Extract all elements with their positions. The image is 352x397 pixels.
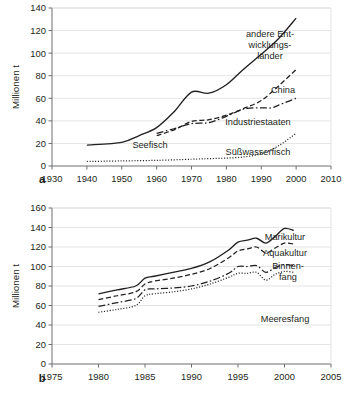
panel-letter-a: a — [39, 173, 46, 185]
x-tick-label-1995: 1995 — [228, 371, 249, 382]
series-line-industriestaaten — [157, 98, 297, 133]
x-tick-label-1950: 1950 — [111, 173, 132, 184]
y-tick-label-0: 0 — [41, 358, 46, 369]
y-tick-label-160: 160 — [30, 202, 46, 213]
series-label-industriestaaten: Industriestaaten — [225, 117, 290, 127]
x-axis: 1975198019851990199520002005 — [42, 364, 342, 382]
series-label-aquakultur: Aquakultur — [263, 248, 307, 258]
line-chart-a: 0204060801001201401930194019501960197019… — [0, 0, 352, 198]
chart-panel-b: 0204060801001201401601975198019851990199… — [0, 198, 352, 397]
y-tick-label-80: 80 — [36, 280, 46, 291]
x-tick-label-1985: 1985 — [135, 371, 156, 382]
line-chart-b: 0204060801001201401601975198019851990199… — [0, 198, 352, 397]
x-tick-label-2000: 2000 — [286, 173, 307, 184]
y-tick-label-140: 140 — [30, 2, 46, 13]
x-tick-label-1960: 1960 — [146, 173, 167, 184]
series-label-binnenfang: Binnen-fang — [272, 261, 304, 282]
x-axis: 193019401950196019701980199020002010 — [42, 166, 342, 184]
series-line-binnenfang — [99, 264, 294, 306]
x-tick-label-1980: 1980 — [216, 173, 237, 184]
y-axis: 020406080100120140160 — [30, 202, 52, 369]
y-tick-label-140: 140 — [30, 222, 46, 233]
y-tick-label-20: 20 — [36, 138, 46, 149]
x-tick-label-1980: 1980 — [88, 371, 109, 382]
series-labels: MarikulturAquakulturBinnen-fangMeeresfan… — [261, 232, 310, 324]
y-tick-label-80: 80 — [36, 70, 46, 81]
series-label-china: China — [271, 85, 296, 95]
y-tick-label-40: 40 — [36, 115, 46, 126]
y-tick-label-20: 20 — [36, 339, 46, 350]
y-tick-label-0: 0 — [41, 160, 46, 171]
panel-letter-b: b — [39, 372, 46, 384]
x-tick-label-2005: 2005 — [321, 371, 342, 382]
y-axis-title: Millionen t — [10, 264, 21, 308]
annotation-seefisch: Seefisch — [132, 140, 167, 150]
chart-panel-a: 0204060801001201401930194019501960197019… — [0, 0, 352, 198]
y-tick-label-40: 40 — [36, 319, 46, 330]
series-label-andere-entwicklungslaender: andere Ent-wicklungs-länder — [246, 29, 294, 61]
x-tick-label-1970: 1970 — [181, 173, 202, 184]
y-tick-label-60: 60 — [36, 93, 46, 104]
x-tick-label-2000: 2000 — [274, 371, 295, 382]
y-tick-label-60: 60 — [36, 300, 46, 311]
annotations: Seefisch — [132, 140, 167, 150]
y-tick-label-100: 100 — [30, 48, 46, 59]
x-tick-label-1990: 1990 — [251, 173, 272, 184]
series-label-suesswasserfisch: Süßwasserfisch — [226, 147, 291, 157]
x-tick-label-2010: 2010 — [321, 173, 342, 184]
y-tick-label-120: 120 — [30, 241, 46, 252]
y-tick-label-100: 100 — [30, 261, 46, 272]
series-label-marikultur: Marikultur — [265, 232, 305, 242]
x-tick-label-1990: 1990 — [181, 371, 202, 382]
series-labels: andere Ent-wicklungs-länderChinaIndustri… — [225, 29, 296, 157]
x-tick-label-1940: 1940 — [76, 173, 97, 184]
y-tick-label-120: 120 — [30, 25, 46, 36]
series-line-meeresfang — [99, 271, 294, 312]
y-axis-title: Millionen t — [10, 65, 21, 109]
series-label-meeresfang: Meeresfang — [261, 314, 310, 324]
y-axis: 020406080100120140 — [30, 2, 52, 171]
